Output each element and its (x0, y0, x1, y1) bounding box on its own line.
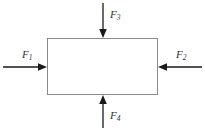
force-f1-arrowhead (38, 63, 47, 71)
force-f4-arrowhead (99, 95, 107, 104)
diagram-canvas: F1 F2 F3 F4 (0, 0, 205, 132)
force-f3-arrowhead (99, 29, 107, 38)
force-f3-subscript: 3 (116, 13, 121, 22)
body-rectangle (48, 39, 158, 95)
force-f2-label: F2 (175, 48, 187, 62)
force-vector-f3: F3 (99, 3, 121, 38)
force-f4-subscript: 4 (117, 114, 121, 123)
force-f2-subscript: 2 (183, 53, 187, 62)
force-f1-label: F1 (21, 48, 32, 62)
force-f2-arrowhead (158, 63, 167, 71)
force-f4-label: F4 (109, 109, 121, 123)
force-vector-f2: F2 (158, 48, 202, 71)
force-f3-label: F3 (109, 8, 121, 22)
force-vector-f4: F4 (99, 95, 121, 128)
force-f1-subscript: 1 (29, 53, 33, 62)
free-body-diagram: F1 F2 F3 F4 (0, 0, 205, 132)
force-vector-f1: F1 (3, 48, 47, 71)
